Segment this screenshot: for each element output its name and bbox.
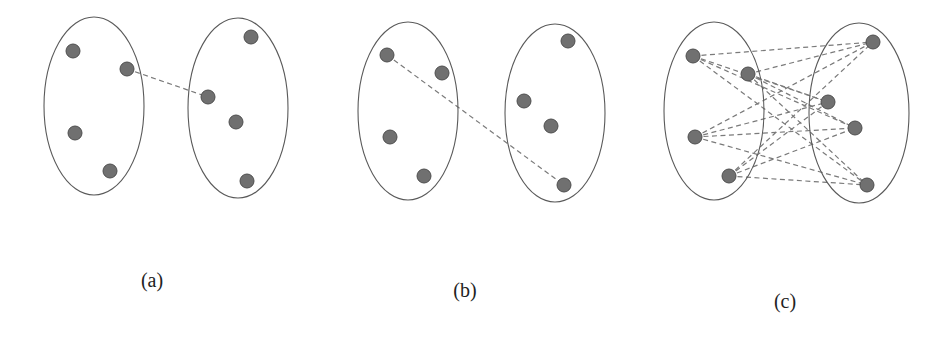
dashed-edge xyxy=(748,42,873,74)
graph-node xyxy=(66,44,80,58)
panel-caption-c: (c) xyxy=(774,290,796,313)
graph-node xyxy=(201,90,215,104)
graph-node xyxy=(557,178,571,192)
graph-node xyxy=(120,62,134,76)
graph-node xyxy=(561,34,575,48)
bipartite-figure: (a) (b) (c) xyxy=(0,0,951,349)
graph-node xyxy=(435,66,449,80)
graph-node xyxy=(383,130,397,144)
node-group xyxy=(66,30,258,188)
graph-node xyxy=(686,49,700,63)
cluster-ellipse-left xyxy=(358,22,458,200)
graph-node xyxy=(229,115,243,129)
node-group xyxy=(686,35,880,192)
dashed-edge xyxy=(729,42,873,176)
dashed-edge xyxy=(729,102,828,176)
edge-group xyxy=(693,42,873,185)
dashed-edge xyxy=(127,69,208,97)
graph-node xyxy=(821,95,835,109)
graph-node xyxy=(240,174,254,188)
panel-caption-b: (b) xyxy=(453,279,476,302)
edge-group xyxy=(387,55,564,185)
panel-a: (a) xyxy=(44,17,288,292)
graph-node xyxy=(517,94,531,108)
panel-c: (c) xyxy=(664,22,909,313)
cluster-ellipse-right xyxy=(505,24,605,202)
graph-node xyxy=(722,169,736,183)
graph-node xyxy=(68,126,82,140)
dashed-edge xyxy=(387,55,564,185)
panel-b: (b) xyxy=(358,22,605,302)
graph-node xyxy=(688,130,702,144)
cluster-ellipse-right xyxy=(188,18,288,198)
graph-node xyxy=(544,119,558,133)
edge-group xyxy=(127,69,208,97)
graph-node xyxy=(244,30,258,44)
dashed-edge xyxy=(693,42,873,56)
graph-node xyxy=(380,48,394,62)
graph-node xyxy=(741,67,755,81)
cluster-group xyxy=(358,22,605,202)
panel-caption-a: (a) xyxy=(141,269,163,292)
node-group xyxy=(380,34,575,192)
cluster-ellipse-left xyxy=(44,17,144,195)
dashed-edge xyxy=(695,137,867,185)
cluster-ellipse-left xyxy=(664,22,764,200)
dashed-edge xyxy=(729,176,867,185)
graph-node xyxy=(417,169,431,183)
graph-node xyxy=(860,178,874,192)
graph-node xyxy=(848,121,862,135)
graph-node xyxy=(866,35,880,49)
graph-node xyxy=(103,164,117,178)
